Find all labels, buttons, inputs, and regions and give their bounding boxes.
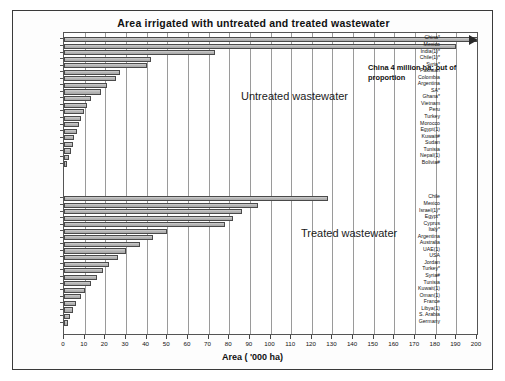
bar <box>64 235 153 240</box>
x-axis-tick-label: 0 <box>53 340 73 347</box>
y-axis-tick <box>60 322 63 323</box>
y-axis-tick <box>60 130 63 131</box>
bar <box>64 155 69 160</box>
y-axis-label: Mexico <box>362 201 440 206</box>
y-axis-tick <box>60 224 63 225</box>
y-axis-label: Egypt* <box>362 214 440 219</box>
gridline <box>209 33 210 334</box>
bar-row <box>64 235 153 240</box>
gridline <box>271 33 272 334</box>
x-axis-tick-label: 190 <box>445 340 465 347</box>
bar-row <box>64 103 87 108</box>
y-axis-tick <box>60 230 63 231</box>
bar-row <box>64 50 215 55</box>
x-axis-tick <box>146 335 147 339</box>
bar-row <box>64 320 68 325</box>
x-axis-tick-label: 150 <box>363 340 383 347</box>
y-axis-tick <box>60 256 63 257</box>
x-axis-tick <box>352 335 353 339</box>
y-axis-tick <box>60 137 63 138</box>
y-axis-label: Morocco <box>362 121 440 126</box>
y-axis-tick <box>60 38 63 39</box>
x-axis-tick-label: 120 <box>301 340 321 347</box>
x-axis-tick-label: 90 <box>239 340 259 347</box>
gridline <box>312 33 313 334</box>
bar <box>64 294 81 299</box>
bar-row <box>64 122 79 127</box>
x-axis-tick-label: 70 <box>198 340 218 347</box>
bar-row <box>64 135 74 140</box>
bar-row <box>64 148 71 153</box>
y-axis-label: India(1)* <box>362 49 440 54</box>
y-axis-tick <box>60 78 63 79</box>
bar-row <box>64 216 233 221</box>
y-axis-label: Chile(1)* <box>362 55 440 60</box>
bar <box>64 129 77 134</box>
x-axis-tick <box>125 335 126 339</box>
x-axis-tick <box>228 335 229 339</box>
bar <box>64 262 109 267</box>
bar <box>64 314 70 319</box>
y-axis-label: Cyprus <box>362 221 440 226</box>
x-axis-tick-label: 80 <box>218 340 238 347</box>
x-axis-tick-label: 130 <box>321 340 341 347</box>
y-axis-tick <box>60 156 63 157</box>
bar <box>64 96 91 101</box>
x-axis-tick-label: 140 <box>342 340 362 347</box>
y-axis-label: S. Arabia <box>362 312 440 317</box>
y-axis-label: Mexico <box>362 42 440 47</box>
bar <box>64 281 91 286</box>
y-axis-label: Syria# <box>362 273 440 278</box>
bar-row <box>64 255 118 260</box>
y-axis-tick <box>60 289 63 290</box>
bar <box>64 148 71 153</box>
x-axis-tick-label: 160 <box>383 340 403 347</box>
y-axis-label: Egypt(1) <box>362 127 440 132</box>
bar <box>64 116 81 121</box>
bar <box>64 222 225 227</box>
x-axis-tick <box>435 335 436 339</box>
x-axis-tick-label: 180 <box>425 340 445 347</box>
y-axis-tick <box>60 71 63 72</box>
truncation-arrow-icon <box>469 35 477 45</box>
x-axis-tick <box>84 335 85 339</box>
x-axis-tick <box>414 335 415 339</box>
section-label-treated: Treated wastewater <box>301 227 397 239</box>
y-axis-label: UAE(1) <box>362 247 440 252</box>
y-axis-tick <box>60 65 63 66</box>
bar-row <box>64 307 73 312</box>
bar-row <box>64 301 76 306</box>
bar <box>64 161 67 166</box>
bar-row <box>64 229 167 234</box>
bar <box>64 242 140 247</box>
y-axis-tick <box>60 315 63 316</box>
x-axis-tick <box>249 335 250 339</box>
y-axis-label: USA <box>362 253 440 258</box>
y-axis-label: Turkey <box>362 114 440 119</box>
y-axis-label: Tunisia <box>362 147 440 152</box>
bar-row <box>64 96 91 101</box>
bar <box>64 83 107 88</box>
y-axis-label: Vietnam <box>362 101 440 106</box>
bar <box>64 307 73 312</box>
bar <box>64 216 233 221</box>
x-axis-title: Area ( '000 ha) <box>13 352 492 362</box>
bar <box>64 122 79 127</box>
x-axis-tick-label: 20 <box>94 340 114 347</box>
bar <box>64 70 120 75</box>
y-axis-tick <box>60 84 63 85</box>
x-axis-tick-label: 170 <box>404 340 424 347</box>
bar <box>64 196 328 201</box>
y-axis-tick <box>60 150 63 151</box>
y-axis-tick <box>60 163 63 164</box>
y-axis-tick <box>60 276 63 277</box>
bar-row <box>64 268 103 273</box>
x-axis-tick-label: 10 <box>74 340 94 347</box>
x-axis-tick <box>208 335 209 339</box>
y-axis-tick <box>60 104 63 105</box>
y-axis-tick <box>60 237 63 238</box>
bar <box>64 109 84 114</box>
bar-row <box>64 203 258 208</box>
y-axis-label: Bolivia# <box>362 160 440 165</box>
bar <box>64 142 73 147</box>
